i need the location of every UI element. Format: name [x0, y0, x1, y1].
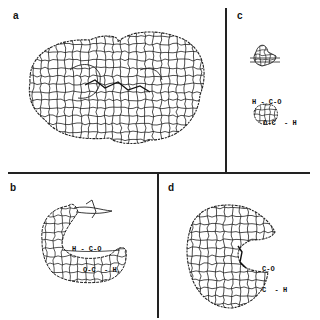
- mesh-a-line-h: [25, 67, 209, 69]
- molecule-formula-b: H - C-O O-C - H: [72, 232, 117, 281]
- mesh-a-line-h: [25, 59, 209, 61]
- formula-c-top: H - C-O: [252, 99, 297, 106]
- mesh-a-line-v: [176, 28, 178, 148]
- mesh-c1-line-h: [250, 39, 278, 41]
- mesh-c1-line-v: [264, 40, 266, 68]
- mesh-a-line-h: [25, 131, 209, 133]
- molecule-formula-d: C-O C - H: [262, 252, 287, 301]
- mesh-d-line-h: [184, 311, 280, 313]
- mesh-a-line-v: [80, 28, 82, 148]
- mesh-a-line-v: [192, 28, 194, 148]
- mesh-a-line-v: [64, 28, 66, 148]
- mesh-a-line-h: [25, 139, 209, 141]
- mesh-a-line-h: [25, 75, 209, 77]
- formula-b-bottom: O-C - H: [72, 267, 117, 274]
- formula-b-top: H - C-O: [72, 246, 117, 253]
- mesh-b-line-v: [53, 200, 55, 284]
- mesh-c2-line-v: [249, 100, 251, 128]
- mesh-a-line-v: [88, 28, 90, 148]
- formula-d-top: C-O: [262, 266, 287, 273]
- mesh-a-line-h: [25, 43, 209, 45]
- surface-mesh-a: [24, 27, 210, 149]
- mesh-a-line-v: [128, 28, 130, 148]
- mesh-b-line-v: [37, 200, 39, 284]
- mesh-a-line-h: [25, 83, 209, 85]
- mesh-c1-line-v: [275, 40, 276, 68]
- mesh-d-line-h: [184, 199, 280, 201]
- mesh-a-line-v: [208, 28, 210, 148]
- mesh-a-line-v: [112, 28, 114, 148]
- mesh-a-line-h: [25, 107, 209, 109]
- mesh-c1-line-v: [260, 40, 261, 68]
- mesh-a-line-v: [200, 28, 202, 148]
- mesh-a-line-v: [96, 28, 98, 148]
- mesh-d-line-h: [184, 247, 280, 249]
- mesh-a-line-h: [25, 123, 209, 125]
- mesh-d-line-h: [184, 239, 280, 241]
- mesh-b-line-v: [45, 200, 47, 284]
- mesh-d-line-h: [184, 303, 280, 305]
- mesh-a-line-v: [32, 28, 34, 148]
- mesh-d-line-v: [247, 200, 249, 312]
- mesh-d-line-h: [184, 207, 280, 209]
- mesh-a-line-v: [160, 28, 162, 148]
- mesh-a-line-v: [120, 28, 122, 148]
- mesh-d-line-h: [184, 231, 280, 233]
- surface-fragment-c-top: [249, 39, 280, 68]
- mesh-a-line-v: [168, 28, 170, 148]
- mesh-a-line-h: [25, 115, 209, 117]
- mesh-b-line-h: [38, 215, 130, 217]
- mesh-c1-line-v: [249, 40, 250, 68]
- mesh-a-line-h: [25, 27, 209, 29]
- mesh-a-line-v: [48, 28, 50, 148]
- mesh-a-line-v: [136, 28, 138, 148]
- mesh-b-line-v: [117, 200, 119, 284]
- mesh-a-line-h: [25, 99, 209, 101]
- mesh-d-line-v: [183, 200, 185, 312]
- mesh-a-line-v: [152, 28, 154, 148]
- mesh-c1-line-h: [250, 49, 278, 51]
- mesh-b-line-h: [38, 199, 130, 201]
- mesh-a-line-h: [25, 147, 209, 149]
- mesh-b-line-h: [38, 223, 130, 225]
- mesh-a-line-v: [24, 28, 26, 148]
- mesh-a-line-h: [25, 91, 209, 93]
- molecule-formula-c: H - C-O O-C - H: [252, 85, 297, 134]
- mesh-a-line-h: [25, 35, 209, 37]
- formula-d-bottom: C - H: [262, 287, 287, 294]
- mesh-b-line-v: [69, 200, 71, 284]
- mesh-b-line-v: [125, 200, 127, 284]
- mesh-a-line-h: [25, 51, 209, 53]
- mesh-a-line-v: [40, 28, 42, 148]
- mesh-c1-line-v: [280, 40, 281, 68]
- formula-c-bottom: O-C - H: [252, 120, 297, 127]
- mesh-b-line-v: [61, 200, 63, 284]
- mesh-a-line-v: [72, 28, 74, 148]
- mesh-a-line-v: [184, 28, 186, 148]
